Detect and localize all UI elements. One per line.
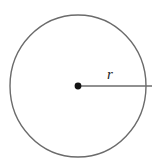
radius-label: r [107, 66, 113, 82]
figure-background [0, 0, 160, 161]
circle-radius-figure: r [0, 0, 160, 161]
figure-canvas: r [0, 0, 160, 161]
center-point-dot [75, 83, 82, 90]
